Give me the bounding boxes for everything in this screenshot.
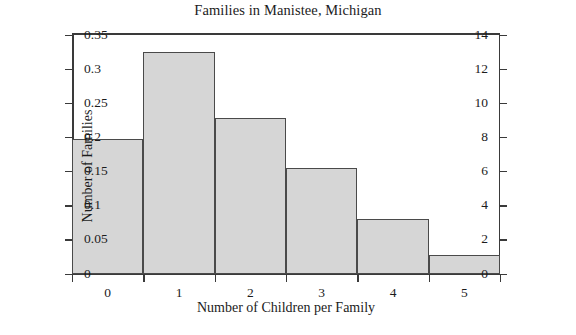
histogram-bar bbox=[357, 219, 428, 274]
y-axis-tick-right bbox=[500, 205, 507, 206]
y-axis-tick-right bbox=[500, 171, 507, 172]
y-axis-tick-left bbox=[65, 103, 72, 104]
y-axis-tick-left bbox=[65, 35, 72, 36]
histogram-bar bbox=[429, 255, 500, 274]
x-axis-tick-label: 1 bbox=[176, 285, 183, 301]
y-axis-tick-right bbox=[500, 239, 507, 240]
histogram-bar bbox=[286, 168, 357, 274]
x-axis-tick-label: 3 bbox=[318, 285, 325, 301]
y-axis-tick-right bbox=[500, 35, 507, 36]
x-axis-tick bbox=[143, 275, 144, 282]
y-axis-tick-right bbox=[500, 137, 507, 138]
x-axis-tick bbox=[357, 275, 358, 282]
x-axis-tick bbox=[286, 275, 287, 282]
x-axis-tick-label: 5 bbox=[461, 285, 468, 301]
y-axis-tick-label-left: 2 bbox=[481, 231, 488, 247]
histogram-chart: Families in Manistee, Michigan 024681012… bbox=[0, 0, 576, 335]
y-axis-title-left: Number of Families bbox=[80, 46, 96, 286]
y-axis-tick-label-left: 14 bbox=[475, 27, 489, 43]
y-axis-tick-label-left: 4 bbox=[481, 197, 488, 213]
histogram-bar bbox=[215, 118, 286, 273]
x-axis-title: Number of Children per Family bbox=[72, 300, 500, 316]
y-axis-tick-left bbox=[65, 205, 72, 206]
x-axis-tick-label: 0 bbox=[104, 285, 111, 301]
y-axis-tick-label-left: 0 bbox=[481, 266, 488, 282]
x-axis-tick bbox=[429, 275, 430, 282]
y-axis-tick-label-right: 0.35 bbox=[84, 27, 108, 43]
y-axis-tick-left bbox=[65, 137, 72, 138]
y-axis-tick-right bbox=[500, 69, 507, 70]
y-axis-tick-label-left: 12 bbox=[475, 61, 489, 77]
x-axis-tick bbox=[215, 275, 216, 282]
plot-area: 02468101214 00.050.10.150.20.250.30.35 0… bbox=[72, 33, 500, 275]
y-axis-tick-label-left: 10 bbox=[475, 95, 489, 111]
x-axis-tick bbox=[72, 275, 73, 282]
y-axis-tick-left bbox=[65, 171, 72, 172]
axis-frame-top bbox=[72, 33, 500, 35]
y-axis-tick-left bbox=[65, 239, 72, 240]
histogram-bar bbox=[143, 52, 214, 274]
y-axis-tick-label-left: 6 bbox=[481, 163, 488, 179]
y-axis-tick-left bbox=[65, 274, 72, 275]
x-axis-tick bbox=[500, 275, 501, 282]
y-axis-tick-left bbox=[65, 69, 72, 70]
chart-title: Families in Manistee, Michigan bbox=[0, 2, 576, 19]
x-axis-tick-label: 4 bbox=[390, 285, 397, 301]
x-axis-tick-label: 2 bbox=[247, 285, 254, 301]
y-axis-tick-label-left: 8 bbox=[481, 129, 488, 145]
y-axis-tick-right bbox=[500, 103, 507, 104]
